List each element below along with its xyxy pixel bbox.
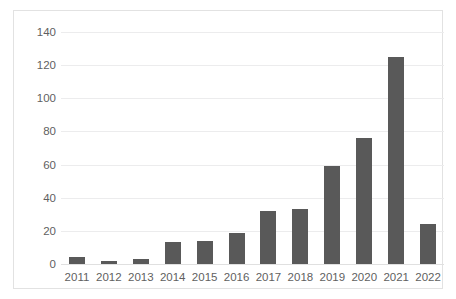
bar-2018[interactable] [292,209,308,264]
bar-slot [93,32,125,264]
x-axis-tick-label-2018: 2018 [284,269,316,289]
x-axis-tick-label-2013: 2013 [125,269,157,289]
chart-frame: 140120100806040200 201120122013201420152… [13,10,443,289]
bar-slot [157,32,189,264]
x-axis-tick-label-2014: 2014 [157,269,189,289]
bar-2021[interactable] [388,57,404,264]
bar-slot [348,32,380,264]
bar-2019[interactable] [324,166,340,264]
bar-slot [221,32,253,264]
y-axis-tick-label: 100 [24,93,56,104]
x-axis: 2011201220132014201520162017201820192020… [61,269,444,289]
y-axis-tick-label: 40 [24,192,56,203]
bar-2015[interactable] [197,241,213,264]
bar-slot [189,32,221,264]
bar-slot [412,32,444,264]
bar-2014[interactable] [165,242,181,264]
bar-2013[interactable] [133,259,149,264]
bar-slot [61,32,93,264]
y-axis-tick-label: 0 [24,259,56,270]
x-axis-tick-label-2012: 2012 [93,269,125,289]
y-axis-tick-label: 60 [24,159,56,170]
bar-2022[interactable] [420,224,436,264]
plot-area [61,32,444,264]
x-axis-tick-label-2016: 2016 [221,269,253,289]
y-axis: 140120100806040200 [19,32,56,264]
bar-2020[interactable] [356,138,372,264]
bar-slot [125,32,157,264]
bar-2017[interactable] [260,211,276,264]
gridline [61,264,444,265]
x-axis-tick-label-2015: 2015 [189,269,221,289]
bar-slot [380,32,412,264]
bar-2012[interactable] [101,261,117,264]
bar-slot [284,32,316,264]
x-axis-tick-label-2021: 2021 [380,269,412,289]
y-axis-tick-label: 140 [24,27,56,38]
x-axis-tick-label-2017: 2017 [253,269,285,289]
x-axis-tick-label-2011: 2011 [61,269,93,289]
x-axis-tick-label-2020: 2020 [348,269,380,289]
y-axis-tick-label: 120 [24,60,56,71]
bar-slot [253,32,285,264]
bar-slot [316,32,348,264]
bar-2016[interactable] [229,233,245,264]
bar-series [61,32,444,264]
x-axis-tick-label-2019: 2019 [316,269,348,289]
bar-2011[interactable] [69,257,85,264]
y-axis-tick-label: 80 [24,126,56,137]
y-axis-tick-label: 20 [24,225,56,236]
x-axis-tick-label-2022: 2022 [412,269,444,289]
